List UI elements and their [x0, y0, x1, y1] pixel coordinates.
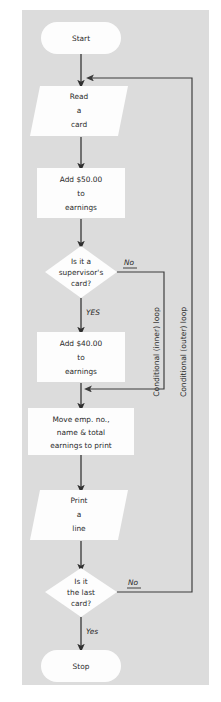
node-is-supervisor-line-1: supervisor's	[59, 268, 104, 277]
node-is-last-card-line-1: the last	[67, 588, 95, 597]
node-read-card-line-0: Read	[70, 92, 89, 101]
node-add-50-line-0: Add $50.00	[60, 175, 103, 184]
node-add-40[interactable]: Add $40.00 to earnings	[37, 332, 125, 382]
node-is-supervisor[interactable]: Is it a supervisor's card?	[45, 246, 117, 298]
flowchart-page: Start Read a card Add $50.00 to earnings…	[0, 0, 221, 702]
branch-label-supervisor-yes: YES	[86, 308, 100, 317]
node-stop[interactable]: Stop	[41, 650, 121, 682]
branch-label-last-yes: Yes	[86, 627, 98, 636]
node-stop-line-0: Stop	[73, 662, 90, 671]
branch-label-last-no: No	[127, 578, 141, 588]
node-add-40-line-0: Add $40.00	[60, 339, 103, 348]
node-add-40-line-1: to	[77, 353, 85, 362]
node-move-data-line-2: earnings to print	[50, 441, 112, 450]
node-is-supervisor-line-2: card?	[71, 279, 91, 288]
branch-label-supervisor-no: No	[123, 258, 137, 268]
node-move-data-line-0: Move emp. no.,	[52, 415, 109, 424]
node-is-last-card[interactable]: Is it the last card?	[45, 568, 117, 617]
node-read-card[interactable]: Read a card	[30, 86, 128, 136]
node-add-50-line-1: to	[77, 189, 85, 198]
node-is-last-card-line-2: card?	[71, 599, 91, 608]
node-start[interactable]: Start	[41, 22, 121, 54]
node-add-50[interactable]: Add $50.00 to earnings	[37, 168, 125, 218]
node-print-line-line-1: a	[77, 510, 82, 519]
node-add-50-line-2: earnings	[65, 203, 97, 212]
node-read-card-line-1: a	[77, 106, 82, 115]
node-is-supervisor-line-0: Is it a	[71, 257, 91, 266]
node-move-data-line-1: name & total	[57, 428, 105, 437]
node-print-line-line-2: line	[72, 524, 86, 533]
svg-text:No: No	[124, 258, 135, 267]
node-print-line[interactable]: Print a line	[30, 490, 128, 540]
node-is-last-card-line-0: Is it	[74, 577, 87, 586]
loop-label-outer: Conditional (outer) loop	[179, 307, 188, 397]
flowchart-canvas: Start Read a card Add $50.00 to earnings…	[0, 0, 221, 702]
node-start-line-0: Start	[72, 34, 90, 43]
node-move-data[interactable]: Move emp. no., name & total earnings to …	[28, 408, 134, 455]
node-print-line-line-0: Print	[70, 496, 87, 505]
loop-label-inner: Conditional (inner) loop	[152, 307, 161, 397]
svg-text:No: No	[128, 578, 139, 587]
node-read-card-line-2: card	[71, 120, 88, 129]
node-add-40-line-2: earnings	[65, 367, 97, 376]
